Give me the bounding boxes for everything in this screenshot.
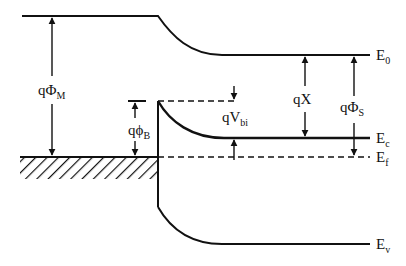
vacuum-level-line <box>22 16 370 55</box>
metal-hatch <box>20 157 158 179</box>
valence-band-line <box>158 207 370 244</box>
band-diagram: qΦM qϕB qVbi qX qΦS E0 Ec Ef Ev <box>0 0 406 266</box>
e0-label: E0 <box>376 47 390 66</box>
phi-b-label: qϕB <box>128 122 150 141</box>
vbi-label: qVbi <box>222 109 248 128</box>
ec-label: Ec <box>376 130 390 149</box>
phi-s-label: qΦS <box>340 99 364 118</box>
phi-m-label: qΦM <box>38 82 65 101</box>
chi-label: qX <box>293 91 312 107</box>
conduction-band-line <box>158 101 370 138</box>
ef-label: Ef <box>376 149 389 168</box>
ev-label: Ev <box>376 236 390 255</box>
